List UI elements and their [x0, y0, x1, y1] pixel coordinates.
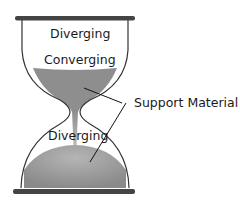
bottom-sand	[24, 145, 126, 188]
top-sand	[33, 68, 117, 112]
label-bottom-diverging: Diverging	[48, 128, 108, 143]
label-top-diverging: Diverging	[50, 26, 110, 41]
bottom-bar	[13, 189, 135, 194]
label-converging: Converging	[44, 52, 116, 67]
top-bar	[15, 16, 135, 21]
hourglass-diagram: Diverging Converging Support Material Di…	[0, 0, 240, 204]
label-support-material: Support Material	[134, 95, 238, 110]
